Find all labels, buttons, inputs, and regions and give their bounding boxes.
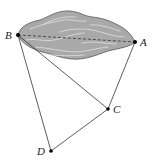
- label-a: A: [139, 36, 147, 48]
- label-b: B: [5, 29, 12, 41]
- segment-a-c: [108, 42, 135, 109]
- geometry-figure: A B C D: [0, 0, 153, 163]
- diagram-canvas: A B C D: [0, 0, 153, 163]
- point-d: [49, 149, 53, 153]
- point-c: [106, 107, 110, 111]
- label-d: D: [36, 145, 45, 157]
- point-a: [133, 40, 137, 44]
- point-b: [16, 33, 20, 37]
- segment-d-c: [51, 109, 108, 151]
- label-c: C: [113, 103, 121, 115]
